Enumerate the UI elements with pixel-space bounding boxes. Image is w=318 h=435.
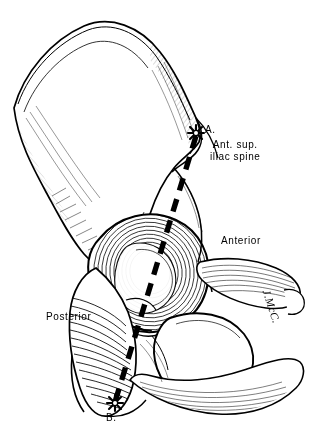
label-anterior-superior-iliac-spine: Ant. sup. iliac spine <box>210 139 261 163</box>
starburst-marker-b <box>107 395 123 411</box>
label-point-b: B. <box>106 412 117 424</box>
label-posterior: Posterior <box>46 311 91 323</box>
pelvis-illustration <box>0 0 318 435</box>
asis-line-2: iliac spine <box>210 151 261 163</box>
label-anterior: Anterior <box>221 235 261 247</box>
asis-line-1: Ant. sup. <box>210 139 261 151</box>
starburst-marker-a <box>188 125 204 141</box>
anatomical-figure: A. Ant. sup. iliac spine Anterior Poster… <box>0 0 318 435</box>
superior-pubic-ramus <box>197 259 305 315</box>
label-point-a: A. <box>205 124 216 136</box>
